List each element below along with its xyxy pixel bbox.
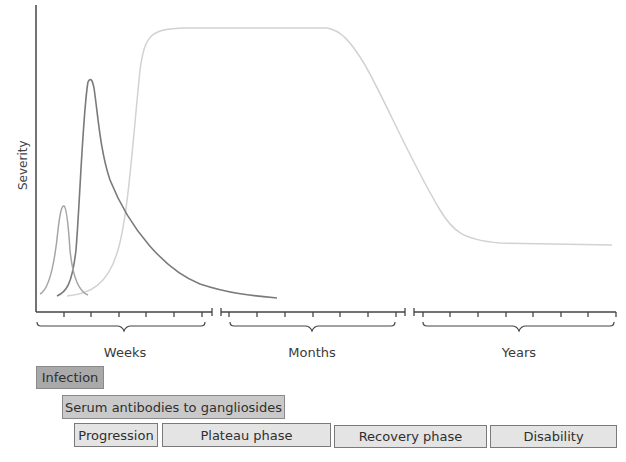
phase-serum-antibodies: Serum antibodies to gangliosides xyxy=(62,395,285,419)
severity-curve xyxy=(67,28,612,296)
x-segment-label-weeks: Weeks xyxy=(85,345,165,360)
x-axis-weeks xyxy=(36,308,212,331)
phase-recovery: Recovery phase xyxy=(334,425,487,448)
x-segment-label-months: Months xyxy=(272,345,352,360)
x-segment-label-years: Years xyxy=(479,345,559,360)
severity-chart xyxy=(0,0,626,462)
phase-disability: Disability xyxy=(490,425,617,448)
phase-progression: Progression xyxy=(74,423,158,447)
phase-plateau: Plateau phase xyxy=(162,423,331,447)
antibody-curve xyxy=(57,80,277,298)
x-axis-years xyxy=(414,308,616,331)
infection-curve xyxy=(40,206,88,295)
y-axis-label: Severity xyxy=(0,150,53,190)
phase-infection: Infection xyxy=(36,366,104,389)
x-axis-months xyxy=(221,308,405,331)
